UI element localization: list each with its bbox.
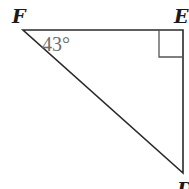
vertex-label-f: F bbox=[11, 5, 27, 27]
right-angle-marker bbox=[159, 30, 183, 57]
vertex-label-d: D bbox=[176, 178, 189, 189]
triangle-diagram: F E D 43° bbox=[0, 0, 189, 189]
angle-label-f: 43° bbox=[42, 33, 70, 55]
vertex-label-e: E bbox=[173, 5, 189, 27]
